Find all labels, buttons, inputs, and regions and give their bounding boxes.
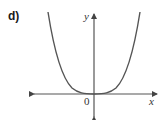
origin-label: 0: [84, 95, 90, 107]
function-graph: y x 0: [0, 0, 166, 120]
x-axis-label: x: [148, 95, 154, 107]
y-axis-label: y: [83, 10, 89, 22]
